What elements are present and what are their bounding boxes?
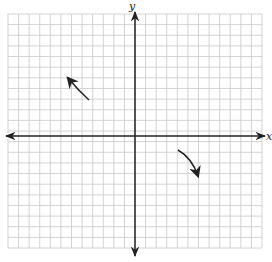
coordinate-plane: x y <box>0 0 272 262</box>
y-axis-label: y <box>128 0 136 13</box>
x-axis-label: x <box>266 130 272 143</box>
